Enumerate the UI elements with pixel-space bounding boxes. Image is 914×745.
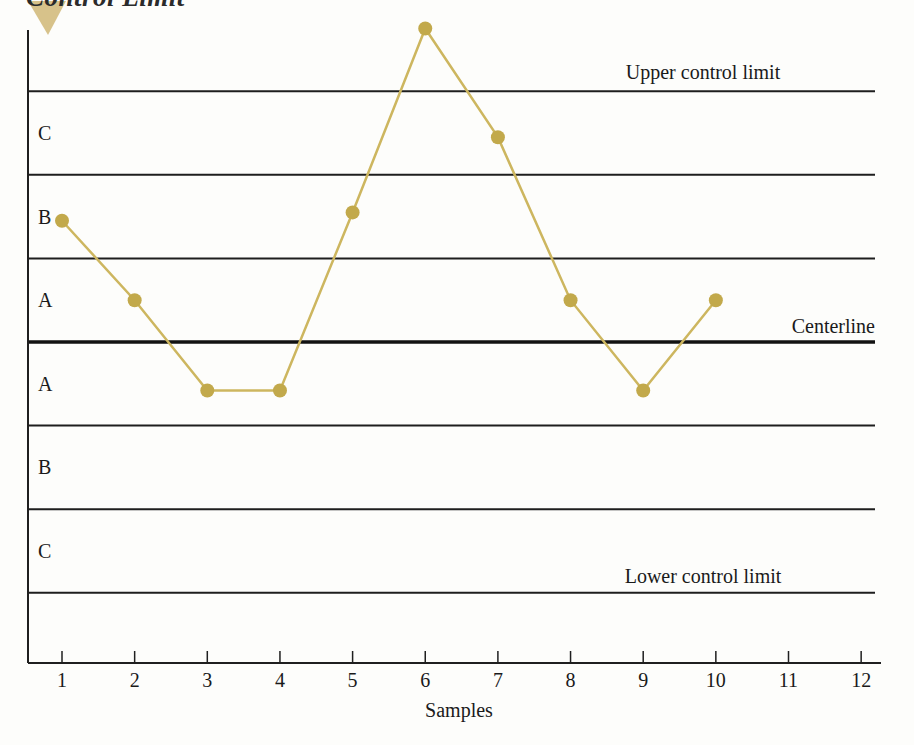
page: 123456789101112CBAABCUpper control limit… <box>0 0 914 745</box>
x-tick-label: 10 <box>706 669 726 691</box>
data-point <box>491 130 505 144</box>
data-point <box>346 205 360 219</box>
lower-control-limit-label: Lower control limit <box>625 565 782 587</box>
control-chart: 123456789101112CBAABCUpper control limit… <box>0 0 914 745</box>
x-tick-label: 4 <box>275 669 285 691</box>
data-point <box>55 214 69 228</box>
data-point <box>709 293 723 307</box>
x-tick-label: 11 <box>779 669 798 691</box>
data-point <box>128 293 142 307</box>
x-tick-label: 2 <box>130 669 140 691</box>
x-tick-label: 3 <box>202 669 212 691</box>
x-tick-label: 6 <box>420 669 430 691</box>
data-point <box>273 383 287 397</box>
zone-label: A <box>38 289 53 311</box>
upper-control-limit-label: Upper control limit <box>626 61 781 84</box>
zone-label: C <box>38 122 51 144</box>
data-point <box>418 22 432 36</box>
x-tick-label: 7 <box>493 669 503 691</box>
centerline-label: Centerline <box>792 315 875 337</box>
x-axis-title: Samples <box>425 699 493 722</box>
zone-label: B <box>38 456 51 478</box>
data-point <box>636 383 650 397</box>
zone-label: A <box>38 373 53 395</box>
zone-label: C <box>38 540 51 562</box>
data-point <box>200 383 214 397</box>
x-tick-label: 8 <box>566 669 576 691</box>
series-line <box>62 29 716 391</box>
zone-label: B <box>38 206 51 228</box>
x-tick-label: 9 <box>638 669 648 691</box>
x-tick-label: 1 <box>57 669 67 691</box>
x-tick-label: 12 <box>851 669 871 691</box>
x-tick-label: 5 <box>348 669 358 691</box>
page-heading: Control Limit <box>26 0 185 11</box>
data-point <box>564 293 578 307</box>
